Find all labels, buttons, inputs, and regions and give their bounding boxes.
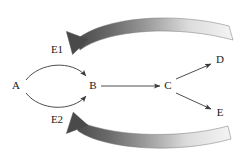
diagram-canvas: A B C D E E1 E2 [0,0,242,165]
node-label-c: C [164,79,171,91]
pathway-diagram: A B C D E E1 E2 [0,0,242,165]
feedback-arrow-to-e1 [60,18,233,58]
node-label-e1: E1 [51,43,63,55]
edge-c-to-d [176,64,211,79]
node-label-a: A [12,79,20,91]
node-label-e: E [217,106,224,118]
edge-a-to-b-upper [26,65,86,80]
edge-a-to-b-lower [26,93,86,107]
node-label-e2: E2 [51,113,63,125]
node-label-d: D [216,53,224,65]
feedback-arrow-to-e2 [61,109,231,148]
node-label-b: B [89,79,96,91]
edge-c-to-e [176,93,211,109]
